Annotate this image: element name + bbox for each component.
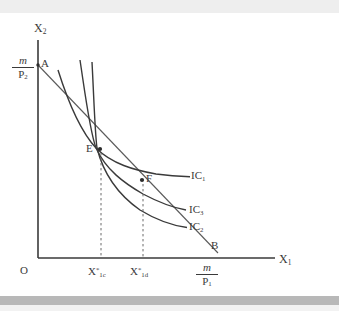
curve-label-ic2: IC2 (189, 221, 203, 233)
horizontal-intercept-fraction: m P1 (196, 262, 218, 289)
indifference-curve-ic1 (58, 70, 190, 177)
point-label-F: F (146, 173, 152, 184)
point-marker-F (140, 178, 144, 182)
point-marker-A (36, 63, 39, 66)
point-label-E: E (86, 143, 93, 154)
point-label-A: A (41, 58, 49, 69)
x-axis-label: X1 (279, 253, 291, 266)
point-marker-E (98, 147, 102, 151)
x-tick-label-x1c: X*1c (88, 266, 106, 278)
vertical-intercept-fraction: m P2 (12, 55, 34, 82)
origin-label: O (20, 265, 28, 276)
curve-label-ic3: IC3 (189, 204, 203, 216)
y-axis-label: X2 (34, 22, 46, 35)
x-tick-label-x1d: X*1d (130, 266, 148, 278)
figure-root: X2 X1 m P2 m P1 A E F B O IC1 IC3 IC2 X*… (0, 0, 339, 311)
point-label-B: B (211, 240, 218, 251)
curve-label-ic1: IC1 (191, 170, 205, 182)
indifference-curve-ic2 (92, 62, 187, 228)
